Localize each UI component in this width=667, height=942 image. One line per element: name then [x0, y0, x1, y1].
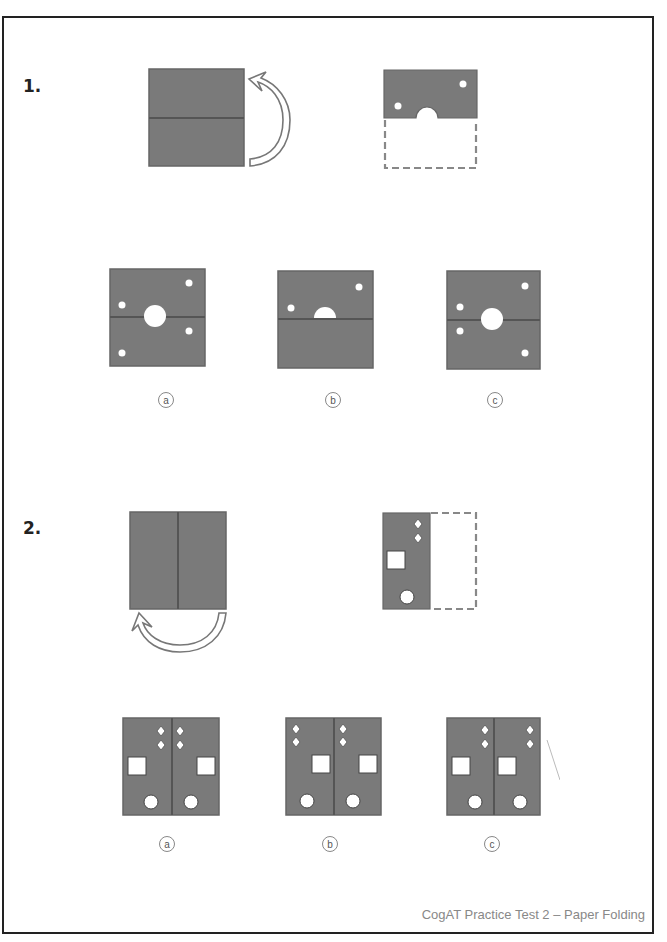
question-number-2: 2.	[23, 518, 41, 538]
q1-option-a[interactable]: a	[158, 392, 174, 408]
fold-arrow-icon	[132, 613, 226, 652]
q1-option-c[interactable]: c	[487, 392, 503, 408]
q1-option-a-figure	[110, 269, 205, 366]
q2-option-b-figure	[286, 718, 381, 815]
q1-option-b-figure	[278, 271, 373, 368]
q1-option-b[interactable]: b	[325, 392, 341, 408]
q1-options	[100, 255, 560, 380]
q1-option-c-figure	[447, 271, 540, 369]
q1-fold-diagram	[140, 60, 300, 180]
fold-arrow-icon	[249, 72, 290, 166]
q1-folded-punched	[370, 50, 500, 180]
q2-option-b[interactable]: b	[322, 836, 338, 852]
q2-option-a[interactable]: a	[159, 836, 175, 852]
q2-option-c[interactable]: c	[484, 836, 500, 852]
q2-option-a-figure	[123, 718, 219, 815]
question-number-1: 1.	[23, 76, 41, 96]
q2-option-c-figure	[447, 718, 540, 815]
q2-options	[110, 705, 560, 820]
q2-fold-diagram	[120, 505, 240, 660]
pencil-mark	[547, 740, 560, 780]
q2-folded-punched	[370, 500, 490, 620]
page-footer: CogAT Practice Test 2 – Paper Folding	[422, 907, 645, 922]
